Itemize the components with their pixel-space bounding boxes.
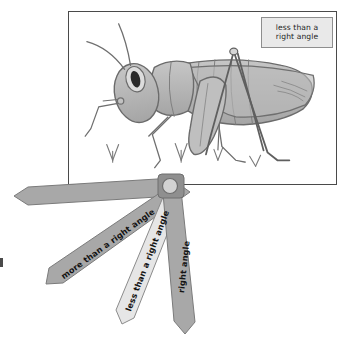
fan-strip-label-less-than: less than a right angle — [123, 209, 171, 313]
front-legs — [85, 98, 124, 137]
fan-strip-label-right-angle: right angle — [176, 240, 191, 293]
middle-leg — [148, 115, 172, 168]
fan-strip-right-angle[interactable] — [163, 190, 195, 334]
fan-strip-label-more-than: more than a right angle — [59, 206, 156, 281]
antennae — [87, 24, 131, 69]
callout-line-2: right angle — [276, 33, 318, 42]
fan-strip-more-than-right-angle[interactable] — [46, 182, 190, 284]
grasshopper-photo-frame: less than a right angle — [68, 11, 337, 185]
angle-label-callout: less than a right angle — [261, 17, 333, 48]
edge-mark — [0, 258, 3, 267]
fan-strip-less-than-right-angle[interactable] — [116, 190, 183, 324]
hind-leg-knee — [230, 48, 238, 55]
grass-tufts — [107, 143, 261, 166]
worksheet-canvas: less than a right angle more tha — [0, 0, 349, 351]
